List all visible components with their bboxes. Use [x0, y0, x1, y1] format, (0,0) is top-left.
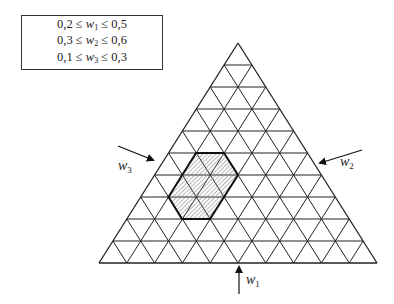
axis-label-w1: w1 — [246, 272, 260, 289]
axis-label-w2: w2 — [340, 154, 354, 171]
axis-label-w3: w3 — [118, 158, 132, 175]
ternary-diagram: 0,2 ≤ w1 ≤ 0,5 0,3 ≤ w2 ≤ 0,6 0,1 ≤ w3 ≤… — [0, 0, 394, 304]
triangle-grid-lines — [113, 65, 363, 263]
ternary-grid — [0, 0, 394, 304]
feasible-region — [169, 153, 239, 219]
